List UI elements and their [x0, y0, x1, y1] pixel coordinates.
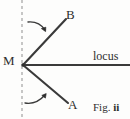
point-label-b: B [66, 8, 75, 21]
figure-container: M B A locus Fig. ii [0, 0, 130, 119]
figure-caption-number: ii [113, 101, 119, 113]
locus-label: locus [93, 50, 118, 62]
ray-m-to-b [23, 19, 66, 65]
vertex-point-marker [21, 63, 25, 67]
point-label-a: A [68, 98, 77, 111]
figure-caption: Fig. ii [93, 102, 119, 113]
lower-rotation-arrow-icon [25, 94, 46, 104]
figure-caption-word: Fig. [93, 101, 110, 113]
upper-rotation-arrow-icon [28, 22, 46, 32]
vertex-label-m: M [3, 54, 15, 67]
